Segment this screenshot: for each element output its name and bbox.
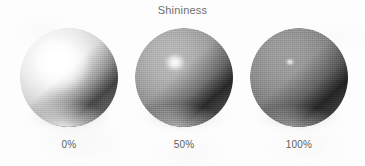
sphere-grain (20, 28, 118, 127)
sphere-caption-0: 0% (19, 139, 119, 150)
sphere-cell-0: 0% (19, 27, 119, 129)
sphere-caption-1: 50% (134, 139, 234, 150)
shininess-sphere-1 (135, 28, 233, 127)
sphere-cell-1: 50% (134, 27, 234, 129)
sphere-grain (250, 28, 348, 127)
shininess-sphere-2 (250, 28, 348, 127)
shininess-figure: Shininess 0% 50% (0, 0, 365, 166)
shininess-sphere-0 (20, 28, 118, 127)
sphere-grain (135, 28, 233, 127)
sphere-cell-2: 100% (249, 27, 349, 129)
sphere-caption-2: 100% (249, 139, 349, 150)
figure-title: Shininess (0, 4, 365, 16)
